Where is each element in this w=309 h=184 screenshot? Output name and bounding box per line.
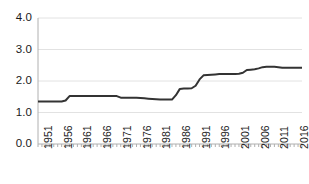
x-axis-tick-label: 1996 — [219, 125, 231, 149]
x-axis-tick-label: 1971 — [121, 125, 133, 149]
x-axis-tick-label: 1951 — [42, 125, 54, 149]
line-chart-plot — [0, 0, 309, 184]
x-axis-tick-label: 2011 — [278, 126, 290, 149]
y-axis-tick-label: 0.0 — [2, 137, 32, 149]
chart-container: 4.03.02.01.00.0 195119561961196619711976… — [0, 0, 309, 184]
data-series-line — [38, 67, 302, 102]
x-axis-tick-label: 2001 — [239, 125, 251, 149]
gridlines — [38, 18, 302, 113]
y-axis-tick-label: 2.0 — [2, 74, 32, 86]
y-axis-tick-label: 1.0 — [2, 106, 32, 118]
y-axis-tick-label: 4.0 — [2, 11, 32, 23]
x-axis-tick-label: 1966 — [101, 125, 113, 149]
x-axis-tick-label: 1961 — [81, 125, 93, 149]
x-axis-tick-label: 1981 — [160, 125, 172, 149]
x-axis-tick-label: 1956 — [62, 125, 74, 149]
x-axis-tick-label: 1986 — [180, 125, 192, 149]
y-axis-tick-label: 3.0 — [2, 43, 32, 55]
x-axis-tick-label: 2006 — [259, 125, 271, 149]
x-axis-tick-label: 2016 — [298, 125, 309, 149]
x-axis-tick-label: 1976 — [141, 125, 153, 149]
x-axis-tick-label: 1991 — [200, 125, 212, 149]
